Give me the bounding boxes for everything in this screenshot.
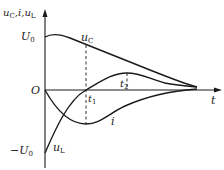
t-axis-label: t (211, 94, 216, 107)
y-axis-label: uC,i,uL (3, 7, 36, 20)
y-axis-arrow-icon (43, 9, 48, 17)
uL-label: uL (53, 141, 65, 155)
x-axis-arrow-icon (214, 88, 222, 93)
i-curve (45, 89, 197, 124)
origin-label: O (31, 84, 40, 97)
negU0-label: −U0 (10, 144, 33, 158)
U0-label: U0 (21, 30, 35, 44)
i-label: i (111, 115, 115, 128)
uC-label: uC (81, 31, 93, 45)
waveform-diagram: uC,i,uL U0 −U0 O t t1 t2 uC i uL (0, 0, 224, 170)
t1-label: t1 (88, 93, 97, 106)
